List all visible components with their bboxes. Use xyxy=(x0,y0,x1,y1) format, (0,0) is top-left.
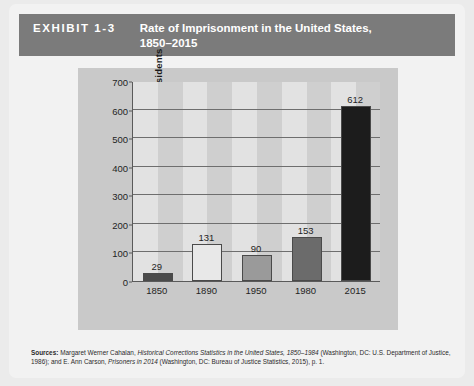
chart-panel: Rate per 100,000 residents 0100200300400… xyxy=(78,68,398,330)
exhibit-header: EXHIBIT 1-3 Rate of Imprisonment in the … xyxy=(19,14,455,56)
y-axis-tick-label: 0 xyxy=(123,277,128,288)
x-axis-tick-label-2015: 2015 xyxy=(345,285,366,296)
sources-text-3: (Washington, DC: Bureau of Justice Stati… xyxy=(158,358,324,365)
y-axis-tick-label: 500 xyxy=(112,134,128,145)
bar-value-label-1980: 153 xyxy=(298,225,314,236)
sources-title-2: Prisoners in 2014 xyxy=(108,358,158,365)
sources-text-1: Margaret Werner Cahalan, xyxy=(58,349,137,356)
y-axis-tick-mark xyxy=(129,253,132,254)
y-axis-tick-label: 300 xyxy=(112,191,128,202)
y-axis-tick-mark xyxy=(129,167,132,168)
y-axis-tick-mark xyxy=(129,82,132,83)
y-axis-tick-mark xyxy=(129,139,132,140)
bar-1850 xyxy=(143,273,173,281)
bar-value-label-1890: 131 xyxy=(198,232,214,243)
y-axis-tick-mark xyxy=(129,110,132,111)
sources-label: Sources: xyxy=(31,349,58,356)
x-axis-tick-label-1950: 1950 xyxy=(245,285,266,296)
exhibit-card: EXHIBIT 1-3 Rate of Imprisonment in the … xyxy=(9,4,465,378)
exhibit-title-line-2: 1850–2015 xyxy=(140,36,372,51)
y-axis-tick-label: 600 xyxy=(112,105,128,116)
plot-area-wrapper: 0100200300400500600700291850131189090195… xyxy=(132,82,380,300)
y-axis-tick-label: 200 xyxy=(112,219,128,230)
y-axis-tick-label: 100 xyxy=(112,248,128,259)
exhibit-title-line-1: Rate of Imprisonment in the United State… xyxy=(140,21,372,36)
y-axis-tick-label: 400 xyxy=(112,162,128,173)
bar-1890 xyxy=(192,244,222,281)
exhibit-title: Rate of Imprisonment in the United State… xyxy=(140,21,372,51)
x-axis-tick-label-1980: 1980 xyxy=(295,285,316,296)
y-axis-tick-mark xyxy=(129,196,132,197)
y-axis-tick-label: 700 xyxy=(112,77,128,88)
x-axis-tick-label-1890: 1890 xyxy=(196,285,217,296)
bar-value-label-2015: 612 xyxy=(347,94,363,105)
sources-title-1: Historical Corrections Statistics in the… xyxy=(137,349,318,356)
exhibit-number-label: EXHIBIT 1-3 xyxy=(33,21,116,34)
bar-1950 xyxy=(242,255,272,281)
bar-value-label-1950: 90 xyxy=(251,243,262,254)
bar-value-label-1850: 29 xyxy=(152,261,163,272)
x-axis-tick-label-1850: 1850 xyxy=(146,285,167,296)
bar-1980 xyxy=(292,237,322,281)
sources-footnote: Sources: Margaret Werner Cahalan, Histor… xyxy=(31,348,461,367)
y-axis-tick-mark xyxy=(129,224,132,225)
bar-2015 xyxy=(341,106,371,281)
y-axis-tick-mark xyxy=(129,282,132,283)
